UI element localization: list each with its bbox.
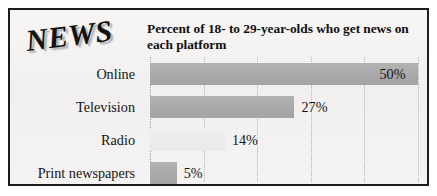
bar-value-label: 50%	[380, 65, 406, 82]
bar-track: 14%	[150, 123, 427, 156]
bar	[150, 129, 225, 151]
bar	[150, 63, 418, 85]
bar-chart-plot-area: Online50%Television27%Radio14%Print news…	[10, 57, 427, 184]
bar-track: 50%	[150, 57, 427, 90]
chart-title: Percent of 18- to 29-year-olds who get n…	[147, 21, 429, 52]
bar-row: Print newspapers5%	[10, 156, 427, 186]
bar-value-label: 14%	[232, 131, 258, 148]
bar-row: Online50%	[10, 57, 427, 90]
bar-value-label: 27%	[301, 98, 327, 115]
bar-track: 27%	[150, 90, 427, 123]
bar	[150, 162, 177, 184]
bar-track: 5%	[150, 156, 427, 186]
infographic-frame: NEWS Percent of 18- to 29-year-olds who …	[8, 8, 429, 186]
bar-row: Radio14%	[10, 123, 427, 156]
bar-category-label: Television	[76, 98, 135, 115]
bar-category-label: Online	[96, 65, 135, 82]
bar-value-label: 5%	[184, 164, 203, 181]
bar-row: Television27%	[10, 90, 427, 123]
news-infographic-screenshot: NEWS Percent of 18- to 29-year-olds who …	[0, 0, 437, 196]
bar-category-label: Print newspapers	[38, 164, 135, 181]
bar-category-label: Radio	[101, 131, 135, 148]
bar	[150, 96, 294, 118]
